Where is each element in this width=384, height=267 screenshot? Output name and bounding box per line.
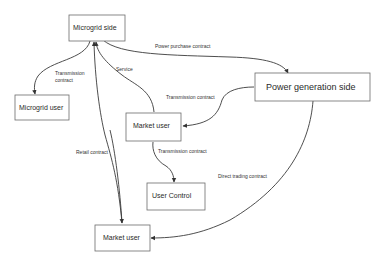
node-label: Microgrid side xyxy=(73,24,117,32)
edge-label-service: Service xyxy=(116,66,133,72)
edge-transmission-microgrid-user xyxy=(34,41,90,94)
diagram-canvas: Power purchase contract Transmission con… xyxy=(0,0,384,267)
node-label: Market user xyxy=(103,234,141,241)
edge-label-direct-trading: Direct trading contract xyxy=(218,173,268,179)
edge-label-transmission-line1: Transmission xyxy=(55,70,85,76)
node-label: Microgrid user xyxy=(19,104,64,112)
edge-transmission-to-market-user xyxy=(183,87,254,126)
node-power-generation-side[interactable]: Power generation side xyxy=(255,73,370,101)
node-market-user-bottom[interactable]: Market user xyxy=(95,225,150,251)
node-microgrid-side[interactable]: Microgrid side xyxy=(69,15,125,41)
node-user-control[interactable]: User Control xyxy=(147,183,205,210)
node-microgrid-user[interactable]: Microgrid user xyxy=(15,95,69,120)
edge-label-transmission-to-user-control: Transmission contract xyxy=(158,148,207,154)
edge-label-transmission-to-market-user: Transmission contract xyxy=(166,94,215,100)
edge-label-transmission-line2: contract xyxy=(55,77,73,83)
edge-label-retail-contract: Retail contract xyxy=(76,149,109,155)
node-label: Market user xyxy=(133,122,171,129)
node-label: Power generation side xyxy=(266,82,356,92)
edge-label-power-purchase: Power purchase contract xyxy=(155,43,211,49)
node-label: User Control xyxy=(152,192,192,199)
node-market-user-mid[interactable]: Market user xyxy=(126,113,181,141)
